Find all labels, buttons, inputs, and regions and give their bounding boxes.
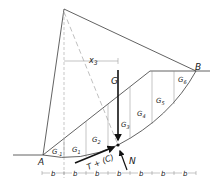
dimension-label-b: b — [73, 170, 78, 178]
dimension-label-b: b — [161, 170, 166, 178]
normal-force-label: N — [129, 156, 136, 166]
dimension-label-b: b — [183, 170, 188, 178]
slice-label-g2: G2 — [92, 136, 101, 145]
shear-force-label: T + (C) — [85, 153, 115, 172]
dimension-label-b: b — [51, 170, 56, 178]
slice-label-g5: G5 — [156, 97, 165, 106]
radius-to-A — [43, 9, 64, 155]
slice-label-g4: G4 — [137, 110, 146, 119]
lever-arm-label: x3 — [88, 56, 98, 66]
radius-to-B — [64, 9, 196, 71]
point-B-label: B — [195, 62, 201, 72]
slice-base-point — [116, 143, 119, 146]
radius-to-slice3-dashed — [64, 12, 118, 145]
slice-label-g6: G6 — [178, 76, 187, 85]
slope-stability-diagram: x3 G T + (C) N A B G-1 G1 G2 G3 G4 G5 G6… — [0, 0, 217, 194]
slice-label-g-1: G-1 — [52, 148, 62, 157]
point-A-label: A — [37, 157, 44, 167]
dimension-label-b: b — [95, 170, 100, 178]
weight-force-label: G — [111, 76, 118, 86]
dimension-label-b: b — [117, 170, 122, 178]
dimension-label-b: b — [139, 170, 144, 178]
slice-label-g1: G1 — [72, 146, 81, 155]
normal-force-arrow — [120, 151, 127, 170]
slice-label-g3: G3 — [121, 121, 130, 130]
